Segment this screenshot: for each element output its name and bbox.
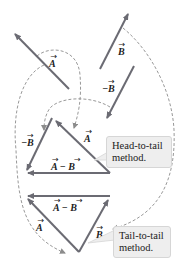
svg-text:→: → (74, 155, 81, 164)
svg-text:→: → (108, 77, 115, 86)
head-to-tail-triangle: A → −B → A − B → → (21, 118, 110, 173)
svg-text:→: → (76, 196, 83, 205)
callout-tail-to-tail-line2: method. (119, 242, 165, 254)
callout-tail-to-tail: Tail-to-tail method. (113, 226, 171, 258)
svg-text:→: → (51, 52, 58, 61)
vector-subtraction-diagram: A → B → −B → A → −B → A − B → → A − B → … (0, 0, 187, 274)
guide-negB-to-headtail (44, 99, 110, 130)
callout-head-to-tail: Head-to-tail method. (106, 136, 172, 168)
svg-text:→: → (27, 131, 34, 140)
svg-text:→: → (97, 223, 104, 232)
svg-text:→: → (86, 127, 93, 136)
callout-head-to-tail-line1: Head-to-tail (112, 140, 166, 152)
callout-head-to-tail-line2: method. (112, 152, 166, 164)
svg-text:→: → (52, 155, 59, 164)
tail-to-tail-triangle: A − B → → A → B → (28, 196, 110, 252)
svg-text:→: → (38, 216, 45, 225)
vector-A (15, 34, 69, 89)
callout-tail-to-tail-line1: Tail-to-tail (119, 230, 165, 242)
tt-vector-B (79, 200, 108, 252)
svg-text:→: → (119, 40, 126, 49)
svg-text:→: → (54, 196, 61, 205)
guide-B-to-tailtail (113, 28, 174, 229)
